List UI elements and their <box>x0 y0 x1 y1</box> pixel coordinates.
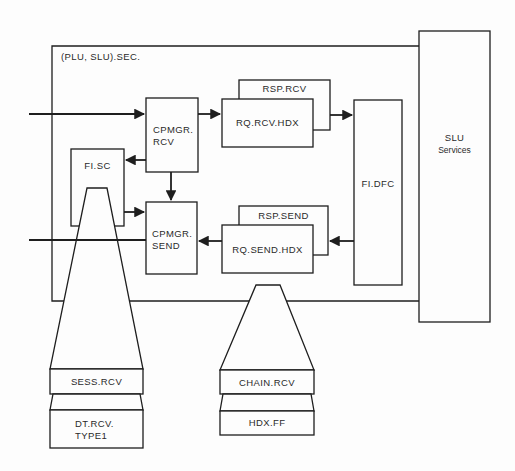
cpmgr-send-box: CPMGR. SEND <box>152 228 192 252</box>
dt-rcv-line1: DT.RCV. <box>75 418 114 430</box>
rq-send-hdx-box: RQ.SEND.HDX <box>222 244 313 256</box>
cpmgr-rcv-line1: CPMGR. <box>153 124 193 136</box>
slu-services-box <box>419 31 490 322</box>
cpmgr-send-line2: SEND <box>152 240 192 252</box>
cpmgr-send-line1: CPMGR. <box>152 228 192 240</box>
chain-rcv-box: CHAIN.RCV <box>220 377 314 389</box>
slu-services-line2: Services <box>419 144 490 156</box>
sess-rcv-box: SESS.RCV <box>50 376 143 388</box>
sec-container-label: (PLU, SLU).SEC. <box>61 51 140 63</box>
diagram-canvas <box>0 0 515 471</box>
dt-rcv-type1-box: DT.RCV. TYPE1 <box>75 418 114 442</box>
fi-dfc-box: FI.DFC <box>354 178 402 190</box>
slu-services-label: SLU Services <box>419 132 490 156</box>
rsp-rcv-box: RSP.RCV <box>239 83 330 95</box>
fi-sc-box: FI.SC <box>71 160 124 172</box>
dt-rcv-line2: TYPE1 <box>75 430 114 442</box>
hdx-ff-box: HDX.FF <box>220 417 314 429</box>
cpmgr-rcv-line2: RCV <box>153 136 193 148</box>
rsp-send-box: RSP.SEND <box>239 210 328 222</box>
rq-rcv-hdx-box: RQ.RCV.HDX <box>222 117 313 129</box>
cpmgr-rcv-box: CPMGR. RCV <box>153 124 193 148</box>
slu-services-line1: SLU <box>419 132 490 144</box>
